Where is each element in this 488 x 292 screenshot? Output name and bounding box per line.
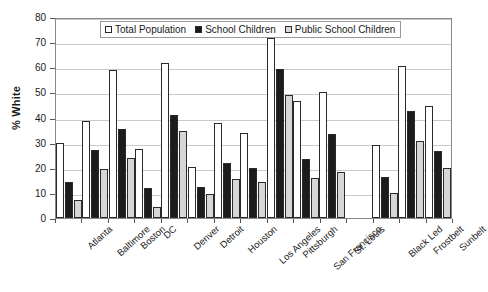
bar-group bbox=[188, 19, 214, 218]
legend-item-total-population: Total Population bbox=[105, 24, 186, 35]
bar bbox=[311, 178, 319, 218]
bar bbox=[328, 134, 336, 218]
bar-group bbox=[319, 19, 345, 218]
x-axis-tick-label: Denver bbox=[192, 224, 221, 252]
bar-group bbox=[56, 19, 82, 218]
legend-swatch-total-population bbox=[105, 26, 112, 33]
y-axis-tick-label: 80 bbox=[35, 13, 46, 23]
y-axis-tick-label: 0 bbox=[40, 214, 46, 224]
bar bbox=[127, 158, 135, 218]
bar bbox=[249, 168, 257, 218]
bar-group bbox=[398, 19, 424, 218]
bar bbox=[74, 200, 82, 218]
bar bbox=[293, 101, 301, 218]
legend-swatch-school-children bbox=[195, 26, 202, 33]
legend-label-total-population: Total Population bbox=[115, 24, 186, 35]
bar bbox=[144, 188, 152, 218]
x-axis-tick bbox=[81, 219, 82, 223]
x-axis-tick bbox=[161, 219, 162, 223]
legend-label-school-children: School Children bbox=[205, 24, 276, 35]
x-axis-tick-label: Houston bbox=[246, 224, 279, 255]
bar bbox=[443, 168, 451, 218]
x-axis-tick-label: DC bbox=[161, 224, 178, 241]
bar bbox=[258, 182, 266, 218]
x-axis-tick-labels: AtlantaBaltimoreBostonDCDenverDetroitHou… bbox=[55, 224, 452, 292]
bar bbox=[153, 207, 161, 218]
y-axis-tick-labels: 01020304050607080 bbox=[0, 18, 55, 219]
y-axis-tick-label: 10 bbox=[35, 189, 46, 199]
x-axis-tick bbox=[293, 219, 294, 223]
bar bbox=[206, 194, 214, 218]
x-axis-tick-label: Atlanta bbox=[86, 224, 115, 251]
bar bbox=[188, 167, 196, 219]
bar bbox=[425, 106, 433, 218]
legend-swatch-public-school-children bbox=[285, 26, 292, 33]
bar bbox=[372, 145, 380, 218]
bar bbox=[337, 172, 345, 218]
bar bbox=[240, 133, 248, 218]
bar bbox=[65, 182, 73, 218]
bar bbox=[319, 92, 327, 218]
bar-group bbox=[135, 19, 161, 218]
x-axis-tick bbox=[373, 219, 374, 223]
bar bbox=[232, 179, 240, 218]
legend-label-public-school-children: Public School Children bbox=[295, 24, 396, 35]
bar-group-spacer bbox=[346, 19, 372, 218]
legend-item-public-school-children: Public School Children bbox=[285, 24, 396, 35]
legend-item-school-children: School Children bbox=[195, 24, 276, 35]
x-axis-tick bbox=[108, 219, 109, 223]
bar bbox=[197, 187, 205, 218]
bar bbox=[109, 70, 117, 218]
x-axis-tick-label: Detroit bbox=[218, 224, 245, 250]
bar bbox=[56, 143, 64, 218]
y-axis-tick-label: 70 bbox=[35, 38, 46, 48]
plot-area bbox=[55, 18, 452, 219]
bar bbox=[179, 131, 187, 218]
bar bbox=[118, 129, 126, 218]
bar bbox=[302, 159, 310, 218]
x-axis-tick bbox=[214, 219, 215, 223]
bar bbox=[434, 151, 442, 218]
bar-group bbox=[240, 19, 266, 218]
x-axis-tick bbox=[452, 219, 453, 223]
bar bbox=[276, 69, 284, 218]
bar-group bbox=[267, 19, 293, 218]
y-axis-tick-label: 50 bbox=[35, 88, 46, 98]
bar bbox=[91, 150, 99, 218]
bar-group bbox=[425, 19, 451, 218]
x-axis-tick bbox=[134, 219, 135, 223]
x-axis-tick bbox=[426, 219, 427, 223]
y-axis-tick-label: 40 bbox=[35, 114, 46, 124]
y-axis-tick-label: 60 bbox=[35, 63, 46, 73]
bar bbox=[407, 111, 415, 218]
x-axis-tick bbox=[55, 219, 56, 223]
bar bbox=[416, 141, 424, 218]
x-axis-tick bbox=[267, 219, 268, 223]
x-axis-tick bbox=[240, 219, 241, 223]
bar bbox=[381, 177, 389, 218]
bar bbox=[214, 123, 222, 218]
bar-group bbox=[214, 19, 240, 218]
chart-legend: Total Population School Children Public … bbox=[100, 21, 401, 38]
bar-group bbox=[109, 19, 135, 218]
bars-layer bbox=[56, 19, 451, 218]
y-axis-tick-label: 20 bbox=[35, 164, 46, 174]
bar bbox=[285, 95, 293, 218]
x-axis-tick bbox=[320, 219, 321, 223]
bar bbox=[82, 121, 90, 218]
bar bbox=[398, 66, 406, 218]
bar bbox=[170, 115, 178, 218]
bar bbox=[267, 38, 275, 218]
bar-group bbox=[372, 19, 398, 218]
x-axis-tick bbox=[399, 219, 400, 223]
bar-group bbox=[161, 19, 187, 218]
bar-group bbox=[293, 19, 319, 218]
bar bbox=[223, 163, 231, 218]
bar bbox=[390, 193, 398, 218]
bar bbox=[161, 63, 169, 218]
y-axis-tick-label: 30 bbox=[35, 139, 46, 149]
x-axis-tick bbox=[346, 219, 347, 223]
x-axis-tick bbox=[187, 219, 188, 223]
bar bbox=[100, 169, 108, 218]
